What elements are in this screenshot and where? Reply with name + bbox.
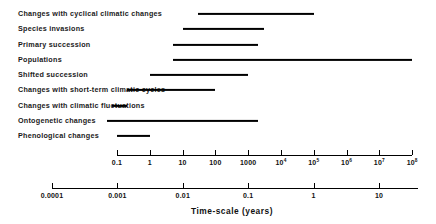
axis-tick-label: 10 xyxy=(179,159,187,166)
range-bar xyxy=(127,89,216,91)
category-label: Populations xyxy=(18,56,62,63)
axis-tick-label: 0.001 xyxy=(108,192,127,199)
axis-tick-label: 108 xyxy=(407,159,418,166)
axis-tick-label: 0.1 xyxy=(112,159,122,166)
range-bar xyxy=(107,120,258,122)
category-label: Changes with cyclical climatic changes xyxy=(18,10,162,17)
axis-tick-label: 107 xyxy=(374,159,385,166)
axis-tick-label: 10 xyxy=(375,192,383,199)
category-label: Phenological changes xyxy=(18,132,99,139)
time-scale-range-chart: Changes with cyclical climatic changesSp… xyxy=(0,0,436,224)
axis-tick xyxy=(281,150,282,155)
axis-tick xyxy=(215,150,216,155)
axis-tick xyxy=(52,183,53,188)
range-bar xyxy=(198,13,314,15)
category-label: Ontogenetic changes xyxy=(18,117,96,124)
axis-tick-label: 104 xyxy=(275,159,286,166)
axis-tick xyxy=(347,150,348,155)
range-bar xyxy=(173,43,258,45)
axis-tick xyxy=(412,150,413,155)
upper-axis-line xyxy=(117,155,412,156)
range-bar xyxy=(117,135,150,137)
axis-tick-label: 100 xyxy=(209,159,221,166)
category-label: Primary succession xyxy=(18,41,90,48)
axis-tick xyxy=(379,183,380,188)
axis-tick-label: 1000 xyxy=(240,159,256,166)
category-label: Species invasions xyxy=(18,26,85,33)
axis-tick-label: 0.1 xyxy=(243,192,253,199)
axis-tick-label: 1 xyxy=(148,159,152,166)
axis-tick xyxy=(248,183,249,188)
axis-tick xyxy=(248,150,249,155)
axis-tick-label: 106 xyxy=(341,159,352,166)
axis-tick xyxy=(314,150,315,155)
range-bar xyxy=(150,74,248,76)
axis-tick xyxy=(183,183,184,188)
axis-tick-label: 1 xyxy=(312,192,316,199)
lower-axis-line xyxy=(52,188,418,189)
axis-tick-label: 0.01 xyxy=(176,192,190,199)
axis-tick-label: 105 xyxy=(308,159,319,166)
axis-tick xyxy=(150,150,151,155)
axis-tick-label: 0.0001 xyxy=(41,192,64,199)
range-bar xyxy=(183,28,264,30)
axis-tick xyxy=(117,183,118,188)
axis-tick xyxy=(314,183,315,188)
range-bar xyxy=(173,59,412,61)
axis-tick xyxy=(379,150,380,155)
axis-title: Time-scale (years) xyxy=(191,207,273,215)
axis-tick xyxy=(183,150,184,155)
range-bar xyxy=(112,104,127,106)
category-label: Shifted succession xyxy=(18,71,88,78)
axis-tick xyxy=(117,150,118,155)
